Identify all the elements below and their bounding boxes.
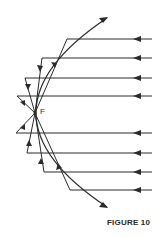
focus-label: F [40, 107, 45, 116]
focus-point [33, 111, 36, 114]
figure-caption: FIGURE 10 [107, 218, 150, 227]
incoming-ray-arrows-icon [133, 36, 141, 193]
parabola-curve [36, 18, 107, 207]
parabola-diagram [0, 0, 160, 238]
